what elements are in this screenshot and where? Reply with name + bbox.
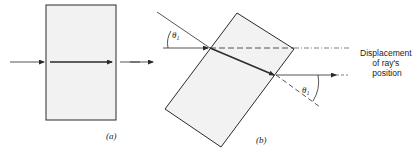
incident-ray-b	[157, 12, 210, 48]
glass-slab-b	[165, 13, 294, 147]
angle-arc-incident	[167, 31, 171, 48]
panel-a-label: (a)	[106, 131, 117, 141]
theta-incident-label: θ1	[172, 30, 179, 41]
panel-b: θ1 θ1 Displacement of ray's position (b)	[130, 12, 414, 147]
refracted-extension-dashed	[276, 75, 320, 107]
displacement-annotation: Displacement of ray's position	[360, 48, 414, 78]
panel-b-label: (b)	[256, 135, 267, 145]
panel-a: (a)	[10, 5, 140, 141]
angle-arc-exit	[313, 75, 319, 101]
refraction-diagram: (a) θ1 θ1 Displacement of ray's position	[0, 0, 420, 154]
theta-exit-label: θ1	[302, 85, 309, 96]
